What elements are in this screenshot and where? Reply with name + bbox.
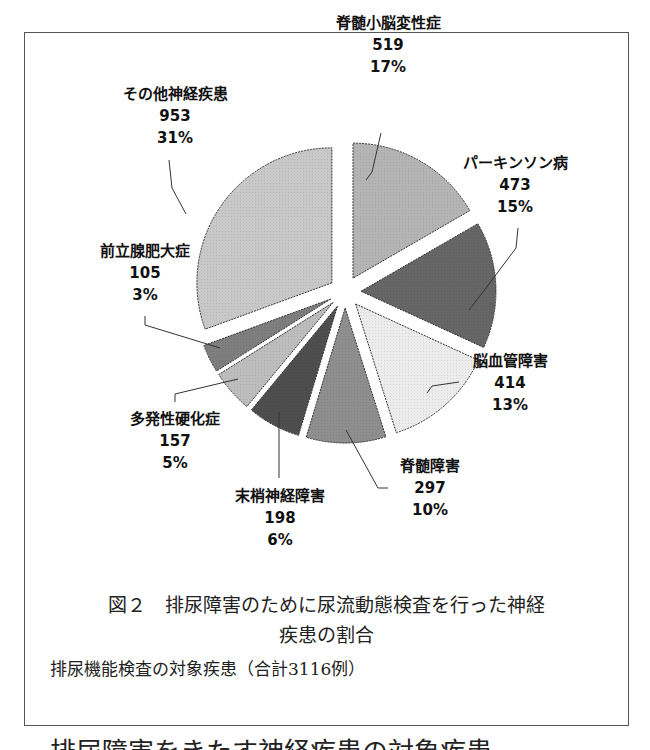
slice-value: 157 [110, 430, 240, 452]
slice-name: 前立腺肥大症 [100, 242, 190, 260]
caption-line-1: 図２ 排尿障害のために尿流動態検査を行った神経 [24, 590, 629, 620]
label-spinocerebellar-degeneration: 脊髄小脳変性症 519 17% [323, 12, 453, 78]
slice-name: その他神経疾患 [123, 85, 228, 103]
slice-value: 198 [210, 507, 350, 529]
slice-percent: 17% [323, 56, 453, 78]
pie-slice-texture [197, 148, 332, 329]
slice-name: 脳血管障害 [473, 352, 548, 370]
label-multiple-sclerosis: 多発性硬化症 157 5% [110, 408, 240, 474]
slice-value: 473 [445, 174, 585, 196]
slice-percent: 10% [380, 499, 480, 521]
slice-value: 297 [380, 477, 480, 499]
label-peripheral-neuropathy: 末梢神経障害 198 6% [210, 485, 350, 551]
label-spinal-cord-disorder: 脊髄障害 297 10% [380, 455, 480, 521]
body-text-cutoff: 排尿障害をきたす神経疾患の対象疾患 [50, 737, 492, 750]
label-other-neurological: その他神経疾患 953 31% [100, 83, 250, 149]
slice-percent: 3% [80, 284, 210, 306]
slice-name: 脊髄障害 [400, 457, 460, 475]
slice-name: 末梢神経障害 [235, 487, 325, 505]
slice-percent: 6% [210, 529, 350, 551]
slice-value: 414 [455, 372, 565, 394]
label-cerebrovascular: 脳血管障害 414 13% [455, 350, 565, 416]
figure-caption: 図２ 排尿障害のために尿流動態検査を行った神経 疾患の割合 [24, 590, 629, 650]
figure-subcaption: 排尿機能検査の対象疾患（合計3116例） [50, 655, 365, 680]
slice-percent: 13% [455, 394, 565, 416]
caption-line-2: 疾患の割合 [24, 620, 629, 650]
slice-value: 105 [80, 262, 210, 284]
slice-name: 脊髄小脳変性症 [336, 14, 441, 32]
label-parkinsons: パーキンソン病 473 15% [445, 152, 585, 218]
slice-name: 多発性硬化症 [130, 410, 220, 428]
slice-value: 953 [100, 105, 250, 127]
slice-value: 519 [323, 34, 453, 56]
slice-name: パーキンソン病 [463, 154, 568, 172]
leader-other [169, 160, 186, 214]
slice-percent: 5% [110, 452, 240, 474]
slice-percent: 31% [100, 127, 250, 149]
slice-percent: 15% [445, 196, 585, 218]
label-prostatic-hypertrophy: 前立腺肥大症 105 3% [80, 240, 210, 306]
